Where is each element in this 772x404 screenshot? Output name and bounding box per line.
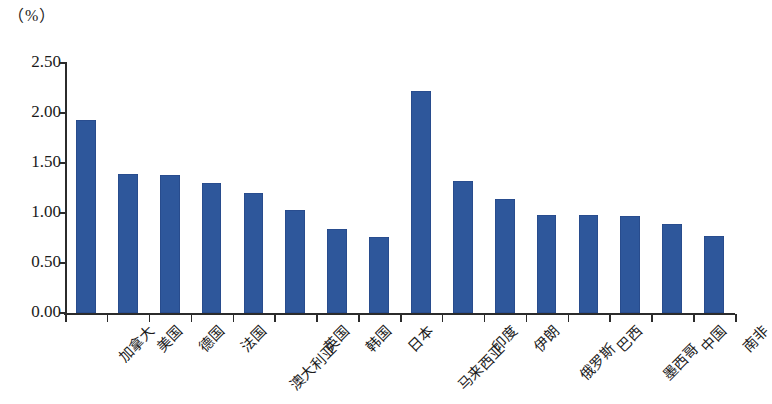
bar bbox=[495, 199, 515, 313]
x-axis-tick-mark bbox=[526, 314, 528, 322]
x-axis-tick-mark bbox=[316, 314, 318, 322]
bar bbox=[704, 236, 724, 313]
x-axis-label: 俄罗斯 bbox=[573, 338, 619, 384]
bar bbox=[411, 91, 431, 313]
bar bbox=[662, 224, 682, 313]
x-axis-tick-mark bbox=[233, 314, 235, 322]
x-axis-tick-mark bbox=[274, 314, 276, 322]
x-axis-tick-mark bbox=[65, 314, 67, 322]
y-axis-tick-label: 1.50 bbox=[31, 152, 61, 172]
x-axis-label: 美国 bbox=[150, 320, 185, 355]
y-axis-tick-label: 0.50 bbox=[31, 252, 61, 272]
x-axis-label: 南非 bbox=[737, 320, 772, 355]
x-axis-tick-mark bbox=[149, 314, 151, 322]
x-axis-tick-mark bbox=[358, 314, 360, 322]
bar bbox=[369, 237, 389, 313]
y-axis-tick-label: 0.00 bbox=[31, 302, 61, 322]
x-axis-label: 伊朗 bbox=[527, 320, 562, 355]
bar bbox=[202, 183, 222, 313]
y-axis-tick-label: 2.00 bbox=[31, 102, 61, 122]
bar bbox=[537, 215, 557, 313]
x-axis-tick-mark bbox=[442, 314, 444, 322]
bar bbox=[620, 216, 640, 313]
bar bbox=[579, 215, 599, 313]
bar bbox=[453, 181, 473, 313]
bar bbox=[118, 174, 138, 313]
x-axis-tick-mark bbox=[107, 314, 109, 322]
x-axis-tick-mark bbox=[568, 314, 570, 322]
x-axis-label: 加拿大 bbox=[113, 320, 159, 366]
x-axis-tick-mark bbox=[400, 314, 402, 322]
x-axis-tick-mark bbox=[484, 314, 486, 322]
x-axis-label: 日本 bbox=[402, 320, 437, 355]
y-axis-tick-label: 1.00 bbox=[31, 202, 61, 222]
x-axis-label: 韩国 bbox=[360, 320, 395, 355]
bar bbox=[327, 229, 347, 313]
bar bbox=[285, 210, 305, 313]
x-axis-label: 德国 bbox=[192, 320, 227, 355]
plot-area bbox=[65, 62, 735, 313]
x-axis-tick-mark bbox=[609, 314, 611, 322]
x-axis-tick-mark bbox=[651, 314, 653, 322]
x-axis-label: 墨西哥 bbox=[657, 338, 703, 384]
y-axis-tick-label: 2.50 bbox=[31, 52, 61, 72]
x-axis-tick-mark bbox=[191, 314, 193, 322]
x-axis-label: 法国 bbox=[234, 320, 269, 355]
x-axis-tick-mark bbox=[735, 314, 737, 322]
bar bbox=[244, 193, 264, 313]
x-axis-tick-mark bbox=[693, 314, 695, 322]
bar bbox=[160, 175, 180, 313]
bar bbox=[76, 120, 96, 313]
y-axis-unit-label: （%） bbox=[8, 2, 56, 26]
